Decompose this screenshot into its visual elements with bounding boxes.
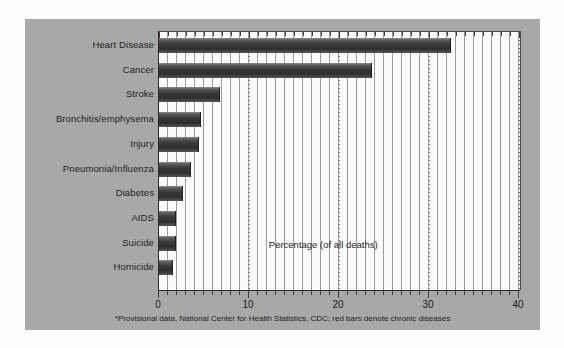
bar-fill [159,38,451,53]
figure-page: Heart DiseaseCancerStrokeBronchitis/emph… [0,0,564,348]
chart-annotation: Percentage (of all deaths) [269,239,378,250]
x-tick-label: 40 [512,299,523,310]
axis-tick [167,291,168,295]
bar [159,260,173,275]
x-tick-label: 20 [332,299,343,310]
axis-tick [257,291,258,295]
axis-tick [473,291,474,295]
x-axis-tick-labels: 010203040 [158,299,520,313]
plot-area: Percentage (of all deaths) [158,31,521,290]
axis-tick [329,291,330,295]
axis-tick [410,291,411,295]
category-label: Injury [24,138,154,149]
bar [159,186,183,201]
category-label: Suicide [24,237,154,248]
axis-tick [464,291,465,295]
axis-tick [176,291,177,295]
bar [159,162,191,177]
axis-tick [482,291,483,295]
x-tick-label: 0 [155,299,161,310]
axis-tick [356,291,357,295]
axis-tick [374,291,375,295]
axis-tick [446,291,447,295]
axis-tick [311,291,312,295]
axis-tick [284,291,285,295]
bar-fill [159,87,220,102]
axis-tick [239,291,240,295]
category-label: Heart Disease [24,39,154,50]
axis-tick [194,291,195,295]
bar-fill [159,63,372,78]
chart-footnote: *Provisional data, National Center for H… [25,314,540,323]
axis-tick [185,291,186,295]
bar [159,112,201,127]
axis-tick [365,291,366,295]
axis-tick [419,291,420,295]
chart-panel: Heart DiseaseCancerStrokeBronchitis/emph… [25,19,540,330]
x-tick-label: 10 [242,299,253,310]
category-axis-labels: Heart DiseaseCancerStrokeBronchitis/emph… [25,31,154,289]
axis-tick [383,291,384,295]
x-axis-line [158,290,520,291]
axis-tick [248,291,249,298]
axis-tick [347,291,348,295]
bar-fill [159,186,183,201]
axis-tick [401,291,402,295]
bar-fill [159,260,173,275]
category-label: Pneumonia/Influenza [24,163,154,174]
category-label: Homicide [24,261,154,272]
category-label: AIDS [24,212,154,223]
category-label: Cancer [24,64,154,75]
axis-tick [158,291,159,298]
axis-tick [212,291,213,295]
bar [159,236,176,251]
axis-tick [230,291,231,295]
axis-tick [509,291,510,295]
bar-fill [159,211,176,226]
axis-tick [221,291,222,295]
axis-tick [500,291,501,295]
axis-tick [293,291,294,295]
axis-tick [437,291,438,295]
axis-tick [266,291,267,295]
x-tick-label: 30 [422,299,433,310]
category-label: Diabetes [24,187,154,198]
bar-series [159,32,520,290]
bar-fill [159,162,191,177]
axis-tick [320,291,321,295]
bar-fill [159,236,176,251]
bar [159,211,176,226]
bar [159,63,372,78]
axis-tick [455,291,456,295]
bar [159,137,199,152]
axis-tick [392,291,393,295]
axis-tick [302,291,303,295]
axis-tick [428,291,429,298]
category-label: Stroke [24,88,154,99]
axis-tick [491,291,492,295]
axis-tick [203,291,204,295]
x-axis-ticks [158,291,520,298]
bar [159,38,451,53]
axis-tick [338,291,339,298]
bar-fill [159,137,199,152]
category-label: Bronchitis/emphysema [24,113,154,124]
bar-fill [159,112,201,127]
axis-tick [518,291,519,298]
axis-tick [275,291,276,295]
bar [159,87,220,102]
